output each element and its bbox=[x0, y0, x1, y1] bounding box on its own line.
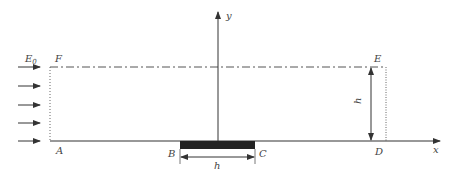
label-a: A bbox=[55, 145, 63, 156]
label-d: D bbox=[374, 146, 383, 157]
incident-field-arrows bbox=[18, 67, 40, 141]
label-plate-width: h bbox=[214, 160, 220, 171]
label-y-axis: y bbox=[225, 10, 232, 21]
label-x-axis: x bbox=[433, 144, 439, 155]
label-c: C bbox=[259, 148, 267, 159]
conducting-plate bbox=[180, 141, 255, 149]
label-f: F bbox=[54, 53, 63, 64]
label-b: B bbox=[167, 148, 175, 159]
label-e: E bbox=[373, 53, 382, 64]
diagram-canvas: E0 F A B C D E x y h h bbox=[0, 0, 453, 176]
field-label: E0 bbox=[24, 53, 37, 66]
label-height: h bbox=[352, 98, 363, 104]
